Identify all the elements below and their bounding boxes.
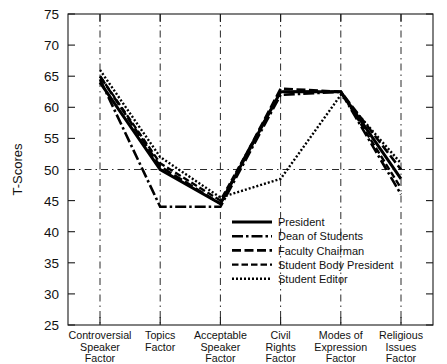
y-tick-label-60: 60 bbox=[44, 100, 59, 115]
x-tick-label-3: Civil bbox=[271, 329, 291, 341]
y-tick-label-70: 70 bbox=[44, 38, 59, 53]
legend-label-3: Student Body President bbox=[278, 259, 394, 271]
x-tick-label-1: Topics bbox=[145, 329, 175, 341]
legend-label-1: Dean of Students bbox=[278, 230, 364, 242]
y-tick-label-65: 65 bbox=[44, 69, 59, 84]
x-tick-label-2: Speaker bbox=[200, 341, 240, 353]
legend-label-0: President bbox=[278, 216, 324, 228]
x-tick-label-2: Acceptable bbox=[194, 329, 247, 341]
legend-label-4: Student Editor bbox=[278, 273, 348, 285]
series-line-4 bbox=[100, 70, 401, 198]
x-tick-label-5: Issues bbox=[386, 341, 417, 353]
y-tick-label-50: 50 bbox=[44, 163, 59, 178]
x-tick-label-4: Modes of bbox=[319, 329, 363, 341]
x-tick-label-5: Religious bbox=[379, 329, 423, 341]
chart-canvas: 2530354045505560657075T-ScoresControvers… bbox=[0, 0, 447, 364]
y-tick-label-75: 75 bbox=[44, 7, 59, 22]
x-tick-label-5: Factor bbox=[386, 352, 417, 364]
y-tick-label-35: 35 bbox=[44, 256, 59, 271]
y-tick-label-40: 40 bbox=[44, 225, 59, 240]
line-chart: 2530354045505560657075T-ScoresControvers… bbox=[0, 0, 447, 364]
y-tick-label-45: 45 bbox=[44, 194, 59, 209]
x-tick-label-0: Speaker bbox=[80, 341, 120, 353]
x-tick-label-3: Factor bbox=[265, 352, 296, 364]
y-tick-label-55: 55 bbox=[44, 131, 59, 146]
x-tick-label-3: Rights bbox=[265, 341, 295, 353]
y-tick-label-25: 25 bbox=[44, 318, 59, 333]
series-line-3 bbox=[100, 76, 401, 200]
legend-label-2: Faculty Chairman bbox=[278, 245, 364, 257]
x-tick-label-0: Factor bbox=[85, 352, 116, 364]
x-tick-label-4: Factor bbox=[326, 352, 357, 364]
y-axis-label: T-Scores bbox=[10, 143, 25, 196]
x-tick-label-4: Expression bbox=[314, 341, 367, 353]
y-tick-label-30: 30 bbox=[44, 287, 59, 302]
x-tick-label-2: Factor bbox=[205, 352, 236, 364]
x-tick-label-0: Controversial bbox=[69, 329, 132, 341]
x-tick-label-1: Factor bbox=[145, 341, 176, 353]
